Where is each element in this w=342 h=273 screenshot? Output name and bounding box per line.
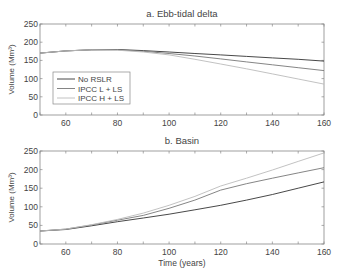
legend-label: IPCC L + LS: [78, 85, 122, 94]
legend-label: No RSLR: [78, 75, 112, 84]
x-axis-label: Time (years): [158, 258, 206, 268]
y-tick-label: 100: [24, 74, 38, 84]
x-tick-label: 120: [214, 247, 228, 257]
y-tick-label: 250: [24, 19, 38, 29]
legend: No RSLRIPCC L + LSIPCC H + LS: [53, 72, 130, 104]
y-tick-label: 100: [24, 202, 38, 212]
y-tick-label: 0: [33, 110, 38, 120]
y-tick-label: 200: [24, 37, 38, 47]
y-tick-label: 200: [24, 165, 38, 175]
x-tick-label: 60: [61, 247, 71, 257]
x-tick-label: 140: [265, 247, 279, 257]
chart-title: a. Ebb-tidal delta: [146, 8, 218, 19]
x-tick-label: 80: [113, 118, 123, 128]
chart-title: b. Basin: [165, 135, 199, 146]
x-tick-label: 140: [265, 118, 279, 128]
x-tick-label: 120: [214, 118, 228, 128]
axes-box: [40, 151, 324, 244]
panel-a-ebb-tidal-delta: a. Ebb-tidal delta6080100120140160050100…: [7, 8, 331, 128]
legend-label: IPCC H + LS: [78, 94, 124, 103]
x-tick-label: 160: [317, 247, 331, 257]
y-tick-label: 250: [24, 146, 38, 156]
figure: a. Ebb-tidal delta6080100120140160050100…: [0, 0, 342, 273]
panel-b-basin: b. Basin6080100120140160050100150200250V…: [7, 135, 331, 268]
x-tick-label: 80: [113, 247, 123, 257]
y-tick-label: 150: [24, 183, 38, 193]
x-tick-label: 100: [162, 118, 176, 128]
y-tick-label: 50: [29, 92, 39, 102]
y-tick-label: 0: [33, 239, 38, 249]
x-tick-label: 100: [162, 247, 176, 257]
x-tick-label: 60: [61, 118, 71, 128]
y-tick-label: 150: [24, 55, 38, 65]
y-tick-label: 50: [29, 220, 39, 230]
y-axis-label: Volume (Mm³): [7, 44, 16, 95]
x-tick-label: 160: [317, 118, 331, 128]
y-axis-label: Volume (Mm³): [7, 172, 16, 223]
